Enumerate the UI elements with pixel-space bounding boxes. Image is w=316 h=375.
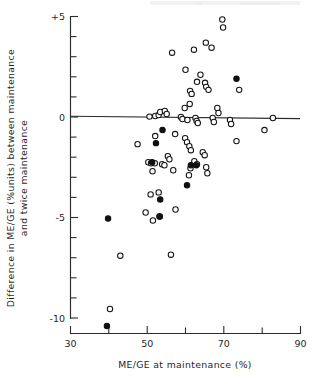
y-axis-title-line2: and twice maintenance	[18, 120, 29, 236]
data-point-filled	[158, 197, 163, 202]
data-point-open	[270, 115, 275, 120]
data-point-open	[172, 131, 177, 136]
data-point-open	[188, 147, 193, 152]
data-point-filled	[188, 163, 193, 168]
data-point-open	[187, 101, 192, 106]
data-point-filled	[160, 127, 165, 132]
data-point-open	[220, 17, 225, 22]
data-point-open	[194, 79, 199, 84]
cut-off-caption-remnant	[150, 1, 300, 5]
x-tick-label-30: 30	[64, 338, 76, 349]
data-point-open	[186, 173, 191, 178]
data-point-open	[118, 253, 123, 258]
data-point-open	[171, 168, 176, 173]
data-point-open	[148, 192, 153, 197]
data-point-open	[167, 157, 172, 162]
data-point-open	[173, 207, 178, 212]
x-tick-label-50: 50	[141, 338, 153, 349]
data-point-open	[169, 50, 174, 55]
data-point-open	[206, 87, 211, 92]
data-point-open	[262, 127, 267, 132]
data-point-filled	[105, 216, 110, 221]
data-point-open	[143, 210, 148, 215]
data-point-open	[156, 190, 161, 195]
data-point-open	[211, 119, 216, 124]
data-point-open	[107, 306, 112, 311]
data-point-open	[168, 252, 173, 257]
data-point-open	[204, 165, 209, 170]
x-tick-label-70: 70	[218, 338, 230, 349]
data-point-open	[198, 72, 203, 77]
data-point-filled	[104, 323, 109, 328]
scatter-plot-figure: +5 0 -5 -10 30 50 70 90 ME/GE at mainten…	[0, 0, 316, 375]
data-point-open	[162, 163, 167, 168]
data-point-open	[191, 47, 196, 52]
data-point-filled	[157, 214, 162, 219]
data-point-open	[236, 87, 241, 92]
y-tick-label-minus5: -5	[56, 212, 65, 223]
data-point-open	[189, 91, 194, 96]
data-point-filled	[234, 76, 239, 81]
data-point-open	[202, 152, 207, 157]
data-point-open	[228, 121, 233, 126]
chart-background	[0, 0, 316, 375]
data-point-open	[203, 40, 208, 45]
data-point-open	[220, 25, 225, 30]
chart-svg: +5 0 -5 -10 30 50 70 90 ME/GE at mainten…	[0, 0, 316, 375]
data-point-open	[153, 133, 158, 138]
y-tick-label-zero: 0	[59, 112, 65, 123]
x-axis-title: ME/GE at maintenance (%)	[118, 359, 252, 370]
data-point-filled	[194, 163, 199, 168]
data-point-open	[183, 67, 188, 72]
data-point-open	[150, 218, 155, 223]
data-point-open	[195, 120, 200, 125]
data-point-open	[185, 117, 190, 122]
data-point-open	[209, 45, 214, 50]
data-point-open	[234, 138, 239, 143]
data-point-filled	[153, 140, 158, 145]
data-point-open	[150, 169, 155, 174]
data-point-filled	[184, 183, 189, 188]
data-point-open	[164, 111, 169, 116]
data-point-filled	[149, 160, 154, 165]
x-tick-label-90: 90	[294, 338, 306, 349]
y-tick-label-minus10: -10	[49, 313, 65, 324]
data-point-open	[147, 114, 152, 119]
data-point-open	[182, 105, 187, 110]
data-point-open	[216, 110, 221, 115]
data-point-open	[215, 105, 220, 110]
y-tick-label-plus5: +5	[51, 11, 65, 22]
data-point-open	[135, 141, 140, 146]
y-axis-title-line1: Difference in ME/GE (%units) between mai…	[5, 49, 16, 307]
data-point-open	[205, 171, 210, 176]
